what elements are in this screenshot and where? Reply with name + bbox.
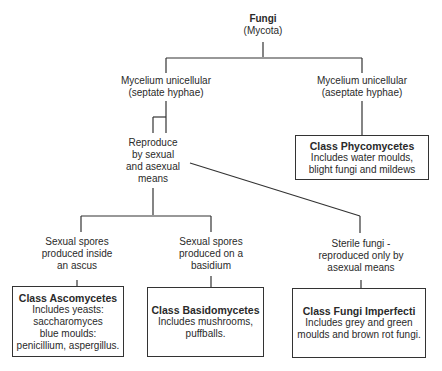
phycomycetes-line1: Includes water moulds, (296, 152, 428, 164)
basidomycetes-line2: puffballs. (148, 328, 263, 340)
root-subtitle: (Mycota) (213, 25, 313, 37)
ascus-line3: an ascus (27, 260, 127, 272)
reproduce-line4: means (118, 173, 188, 185)
root-node: Fungi (Mycota) (213, 13, 313, 37)
phycomycetes-line2: blight fungi and mildews (296, 164, 428, 176)
ascomycetes-line2: saccharomyces (13, 316, 123, 328)
fungi-imperfecti-line2: moulds and brown rot fungi. (293, 329, 425, 341)
ascomycetes-title: Class Ascomycetes (13, 292, 123, 304)
basidomycetes-title: Class Basidomycetes (148, 304, 263, 316)
aseptate-line2: (aseptate hyphae) (302, 87, 422, 99)
sterile-node: Sterile fungi - reproduced only by asexu… (306, 238, 416, 274)
septate-line1: Mycelium unicellular (106, 75, 226, 87)
ascomycetes-line4: penicillium, aspergillus. (13, 340, 123, 352)
ascomycetes-line3: blue moulds: (13, 328, 123, 340)
ascomycetes-line1: Includes yeasts: (13, 304, 123, 316)
phycomycetes-box: Class Phycomycetes Includes water moulds… (295, 135, 429, 180)
basidium-line1: Sexual spores (161, 236, 261, 248)
aseptate-line1: Mycelium unicellular (302, 75, 422, 87)
basidium-line3: basidium (161, 260, 261, 272)
basidium-node: Sexual spores produced on a basidium (161, 236, 261, 272)
basidomycetes-line1: Includes mushrooms, (148, 316, 263, 328)
reproduce-line3: and asexual (118, 161, 188, 173)
ascus-node: Sexual spores produced inside an ascus (27, 236, 127, 272)
aseptate-node: Mycelium unicellular (aseptate hyphae) (302, 75, 422, 99)
septate-line2: (septate hyphae) (106, 87, 226, 99)
fungi-imperfecti-box: Class Fungi Imperfecti Includes grey and… (292, 288, 426, 358)
phycomycetes-title: Class Phycomycetes (296, 140, 428, 152)
root-title: Fungi (213, 13, 313, 25)
reproduce-node: Reproduce by sexual and asexual means (118, 137, 188, 185)
ascomycetes-box: Class Ascomycetes Includes yeasts: sacch… (12, 286, 124, 357)
basidium-line2: produced on a (161, 248, 261, 260)
fungi-imperfecti-line1: Includes grey and green (293, 317, 425, 329)
ascus-line2: produced inside (27, 248, 127, 260)
reproduce-line2: by sexual (118, 149, 188, 161)
sterile-line1: Sterile fungi - (306, 238, 416, 250)
septate-node: Mycelium unicellular (septate hyphae) (106, 75, 226, 99)
sterile-line3: asexual means (306, 262, 416, 274)
sterile-line2: reproduced only by (306, 250, 416, 262)
reproduce-line1: Reproduce (118, 137, 188, 149)
ascus-line1: Sexual spores (27, 236, 127, 248)
fungi-imperfecti-title: Class Fungi Imperfecti (293, 305, 425, 317)
basidomycetes-box: Class Basidomycetes Includes mushrooms, … (147, 287, 264, 357)
